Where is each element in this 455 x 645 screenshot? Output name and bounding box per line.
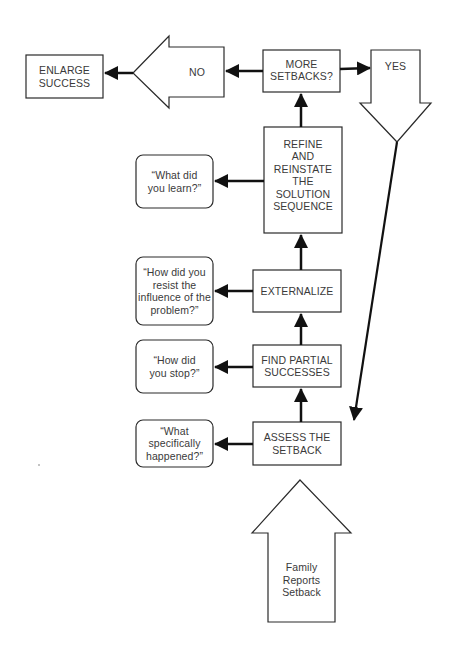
- find-partial-label: FIND PARTIAL SUCCESSES: [253, 345, 341, 387]
- stray-dot: [38, 464, 40, 466]
- edge-yes-to-assess: [354, 142, 397, 420]
- yes-label: YES: [371, 60, 420, 90]
- enlarge-success-label: ENLARGE SUCCESS: [26, 55, 103, 98]
- assess-question-label: “What specifically happened?”: [136, 420, 213, 467]
- externalize-label: EXTERNALIZE: [253, 270, 341, 312]
- find-partial-question-label: “How did you stop?”: [136, 340, 213, 393]
- assess-label: ASSESS THE SETBACK: [253, 422, 341, 465]
- edge-more-to-yes: [340, 68, 370, 69]
- no-label: NO: [170, 47, 224, 97]
- refine-label: REFINE AND REINSTATE THE SOLUTION SEQUEN…: [264, 127, 342, 223]
- family-reports-label: Family Reports Setback: [268, 555, 335, 605]
- more-setbacks-label: MORE SETBACKS?: [263, 50, 340, 90]
- refine-question-label: “What did you learn?”: [136, 155, 213, 208]
- externalize-question-label: “How did you resist the influence of the…: [136, 257, 213, 325]
